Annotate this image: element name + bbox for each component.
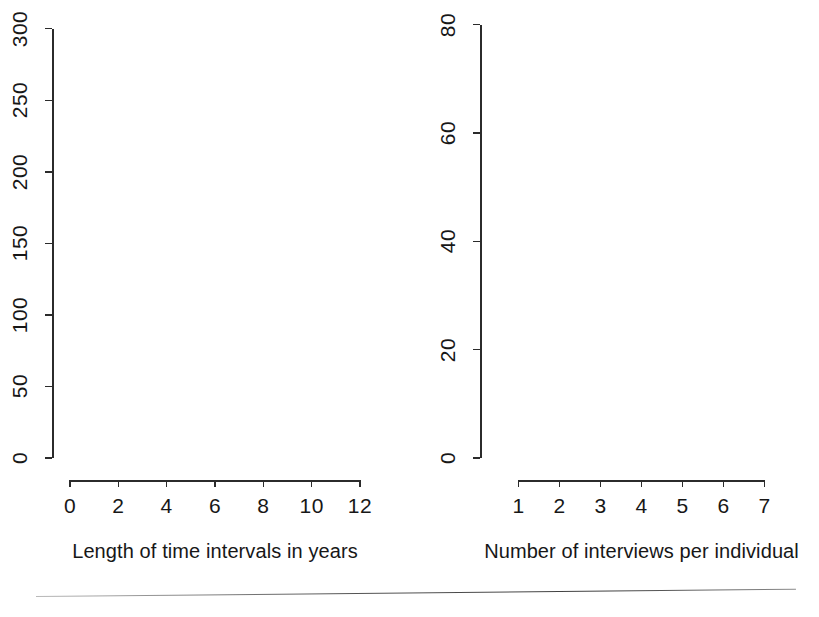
y-axis-line [52,29,54,458]
x-axis-tick [69,480,71,487]
y-axis-tick-label: 100 [8,297,32,334]
y-axis-tick-label: 250 [8,82,32,119]
y-axis-tick [45,243,52,245]
x-axis-tick-label: 5 [676,494,688,518]
x-axis-tick [263,480,265,487]
x-axis-tick [600,480,602,487]
y-axis-tick-label: 300 [8,10,32,47]
x-axis-tick-label: 8 [257,494,269,518]
chart-panel-right: 0204060801234567Number of interviews per… [410,0,819,617]
x-axis-tick-label: 1 [512,494,524,518]
x-axis-tick [682,480,684,487]
y-axis-tick [473,241,480,243]
y-axis-tick-label: 20 [436,337,460,361]
y-axis-tick-label: 150 [8,225,32,262]
y-axis-tick [473,132,480,134]
x-axis-tick-label: 3 [594,494,606,518]
x-axis-tick [641,480,643,487]
x-axis-tick-label: 0 [64,494,76,518]
x-axis-tick-label: 7 [758,494,770,518]
x-axis-tick [518,480,520,487]
y-axis-tick [45,314,52,316]
y-axis-tick-label: 50 [8,374,32,398]
x-axis-title: Number of interviews per individual [484,540,799,563]
x-axis-tick [166,480,168,487]
y-axis-line [480,25,482,458]
y-axis-tick-label: 0 [8,452,32,464]
y-axis-tick [473,457,480,459]
x-axis-tick-label: 6 [209,494,221,518]
x-axis-tick-label: 2 [553,494,565,518]
x-axis-tick-label: 2 [112,494,124,518]
x-axis-tick [311,480,313,487]
y-axis-tick-label: 40 [436,229,460,253]
y-axis-tick [473,24,480,26]
y-axis-tick [45,386,52,388]
y-axis-tick [45,171,52,173]
x-axis-tick [214,480,216,487]
y-axis-tick [45,457,52,459]
x-axis-tick-label: 12 [348,494,372,518]
figure-root: 050100150200250300024681012Length of tim… [0,0,819,617]
y-axis-tick-label: 200 [8,154,32,191]
y-axis-tick-label: 80 [436,12,460,36]
x-axis-tick-label: 4 [635,494,647,518]
x-axis-tick [118,480,120,487]
x-axis-tick [764,480,766,487]
x-axis-tick-label: 4 [161,494,173,518]
x-axis-tick [723,480,725,487]
x-axis-tick-label: 6 [717,494,729,518]
y-axis-tick [45,100,52,102]
x-axis-title: Length of time intervals in years [72,540,358,563]
y-axis-tick [45,28,52,30]
y-axis-tick [473,349,480,351]
chart-panel-left: 050100150200250300024681012Length of tim… [0,0,410,617]
y-axis-tick-label: 60 [436,121,460,145]
y-axis-tick-label: 0 [436,452,460,464]
x-axis-tick-label: 10 [299,494,323,518]
x-axis-tick [359,480,361,487]
x-axis-tick [559,480,561,487]
